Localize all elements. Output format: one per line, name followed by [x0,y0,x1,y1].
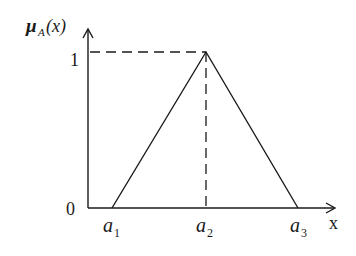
x-tick-a2-sub: 2 [207,226,213,240]
y-axis-label: μ [25,15,37,36]
y-tick-1: 1 [70,50,79,70]
x-tick-a2: a [196,214,206,236]
y-tick-0: 0 [66,199,75,219]
y-axis-label-arg: (x) [46,16,66,37]
x-tick-a3: a [290,214,300,236]
membership-function-diagram: μ A (x) 1 0 a 1 a 2 a 3 x [0,0,356,256]
x-tick-a1-sub: 1 [114,226,120,240]
x-tick-a1: a [103,214,113,236]
y-axis-label-sub: A [37,26,45,38]
x-tick-a3-sub: 3 [301,226,307,240]
x-axis-label: x [329,213,338,233]
membership-triangle [112,52,298,208]
